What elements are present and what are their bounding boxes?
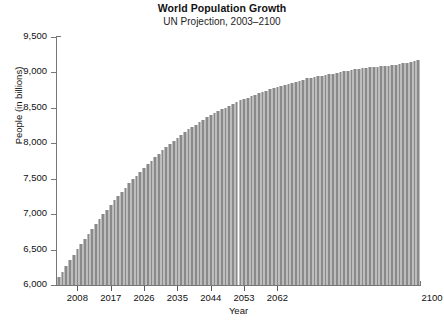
- x-axis-tick: [77, 286, 78, 291]
- bar-series: [57, 37, 420, 285]
- x-axis-tick-label: 2100: [421, 292, 442, 303]
- bar: [416, 60, 420, 285]
- y-axis-tick-label: 6,000: [23, 278, 47, 289]
- x-axis-right-cap: [420, 281, 421, 286]
- y-axis-tick-label: 8,000: [23, 136, 47, 147]
- y-axis-tick-label: 6,500: [23, 243, 47, 254]
- y-axis-tick-label: 7,000: [23, 207, 47, 218]
- x-axis-tick: [244, 286, 245, 291]
- chart-subtitle: UN Projection, 2003–2100: [0, 15, 444, 28]
- x-axis-tick-label: 2026: [133, 292, 154, 303]
- x-axis-tick-label: 2062: [267, 292, 288, 303]
- x-axis-tick: [277, 286, 278, 291]
- chart-title: World Population Growth: [0, 2, 444, 15]
- x-axis-label: Year: [57, 305, 420, 316]
- y-axis-tick-label: 9,500: [23, 30, 47, 41]
- title-block: World Population Growth UN Projection, 2…: [0, 2, 444, 28]
- x-axis-tick-label: 2008: [67, 292, 88, 303]
- y-axis-label: People (in billions): [13, 36, 24, 176]
- x-axis-tick: [211, 286, 212, 291]
- x-axis-tick: [144, 286, 145, 291]
- x-axis-tick-label: 2053: [233, 292, 254, 303]
- x-axis-tick-label: 2017: [100, 292, 121, 303]
- x-axis-tick-label: 2044: [200, 292, 221, 303]
- population-growth-chart: World Population Growth UN Projection, 2…: [0, 0, 444, 323]
- y-axis-tick-label: 9,000: [23, 65, 47, 76]
- y-axis-tick: 6,000: [51, 285, 57, 286]
- y-axis-tick-label: 7,500: [23, 172, 47, 183]
- y-axis-tick-label: 8,500: [23, 101, 47, 112]
- x-axis-tick-label: 2035: [167, 292, 188, 303]
- x-axis-tick: [111, 286, 112, 291]
- x-axis-tick: [177, 286, 178, 291]
